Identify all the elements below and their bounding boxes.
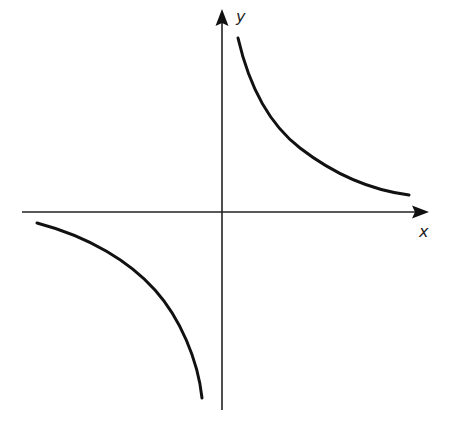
hyperbola-diagram: y x xyxy=(0,0,450,434)
upper-right-branch xyxy=(238,38,409,195)
lower-left-branch xyxy=(37,223,202,398)
graph-canvas: y x xyxy=(0,0,450,434)
y-axis-label: y xyxy=(235,7,246,26)
x-axis-label: x xyxy=(418,222,429,241)
